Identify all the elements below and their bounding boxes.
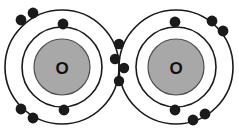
shared-electron-3 [119, 63, 129, 73]
left-electron-3 [16, 15, 27, 26]
left-electron-6 [28, 113, 39, 124]
left-electron-1 [58, 19, 69, 30]
right-nucleus-label: O [169, 59, 182, 78]
right-electron-1 [170, 17, 181, 28]
right-electron-6 [188, 115, 199, 126]
right-electron-5 [200, 109, 211, 120]
shared-electron-4 [114, 76, 124, 86]
o2-bohr-diagram: O O [0, 0, 239, 134]
shared-electron-2 [110, 54, 120, 64]
molecule-canvas: O O [0, 0, 239, 134]
left-electron-2 [59, 105, 70, 116]
right-electron-3 [207, 16, 218, 27]
right-electron-4 [218, 26, 229, 37]
right-electron-2 [170, 105, 181, 116]
left-electron-4 [28, 8, 39, 19]
left-electron-5 [16, 104, 27, 115]
left-nucleus-label: O [55, 59, 68, 78]
shared-electron-1 [114, 39, 124, 49]
